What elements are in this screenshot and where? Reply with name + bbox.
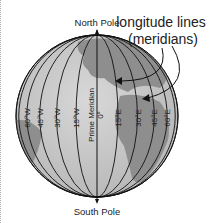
meridian-label-west: 30°W [53,108,62,128]
prime-degree-label: 0° [96,111,105,119]
subtitle-label: (meridians) [128,31,198,47]
south-pole-arrow [95,199,99,204]
meridian-label-east: 60°E [163,109,172,126]
meridian-label-east: 45°E [150,109,159,126]
meridian-label-west: 15°W [72,108,81,128]
meridian-label-west: 45°W [36,108,45,128]
title-label: longitude lines [116,14,206,30]
north-pole-label: North Pole [75,17,120,28]
meridian-label-west: 60°W [23,108,32,128]
meridian-label-east: 15°E [114,109,123,126]
north-pole-arrow [95,29,99,34]
meridian-label-east: 30°E [134,109,143,126]
globe-diagram: North Pole South Pole longitude lines (m… [0,0,221,223]
prime-meridian-label: Prime Meridian [87,88,96,142]
south-pole-label: South Pole [74,206,120,217]
